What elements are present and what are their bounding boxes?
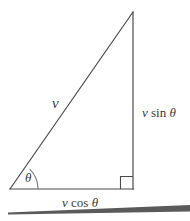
hypotenuse-label-text: v bbox=[52, 95, 59, 111]
horizontal-component-function: cos bbox=[71, 195, 88, 210]
horizontal-component-label: v cos θ bbox=[62, 196, 98, 209]
ground-surface-icon bbox=[8, 205, 190, 215]
angle-label: θ bbox=[25, 171, 31, 184]
vertical-component-angle: θ bbox=[169, 105, 175, 120]
angle-label-text: θ bbox=[25, 170, 31, 185]
hypotenuse-label: v bbox=[52, 96, 59, 111]
right-angle-marker-icon bbox=[121, 177, 134, 190]
horizontal-component-angle: θ bbox=[92, 195, 98, 210]
hypotenuse-velocity-line bbox=[10, 12, 133, 189]
vertical-component-function: sin bbox=[151, 105, 166, 120]
velocity-components-figure: v v sin θ v cos θ θ bbox=[0, 0, 190, 221]
vertical-component-label: v sin θ bbox=[142, 106, 176, 119]
